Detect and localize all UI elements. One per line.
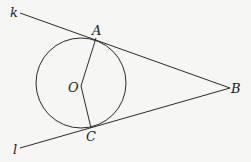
label-o: O (68, 80, 79, 95)
geometry-diagram: k l A B C O (0, 0, 251, 162)
label-c: C (86, 129, 96, 144)
segment-oc (81, 86, 91, 128)
label-k: k (10, 5, 18, 20)
circle-o (36, 38, 126, 128)
label-a: A (91, 23, 101, 38)
label-b: B (230, 81, 241, 96)
diagram-svg: k l A B C O (0, 0, 251, 162)
tangent-line-l (20, 88, 230, 148)
tangent-line-k (20, 13, 230, 88)
label-l: l (13, 142, 17, 157)
segment-oa (81, 38, 96, 86)
